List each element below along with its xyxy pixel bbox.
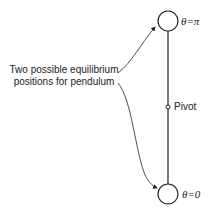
arrow-to-top	[118, 27, 155, 73]
top-bob-circle	[158, 11, 178, 31]
top-angle-label: θ=π	[181, 15, 199, 27]
pivot-label: Pivot	[174, 101, 196, 113]
arrow-to-bottom	[118, 83, 157, 188]
pivot-point	[166, 105, 170, 109]
caption-label: Two possible equilibrium positions for p…	[8, 64, 120, 88]
caption-line-1: Two possible equilibrium	[8, 64, 120, 76]
diagram-canvas: Two possible equilibrium positions for p…	[0, 0, 216, 213]
caption-line-2: positions for pendulum	[8, 76, 120, 88]
bottom-bob-circle	[158, 184, 178, 204]
bottom-angle-label: θ=0	[182, 188, 200, 200]
